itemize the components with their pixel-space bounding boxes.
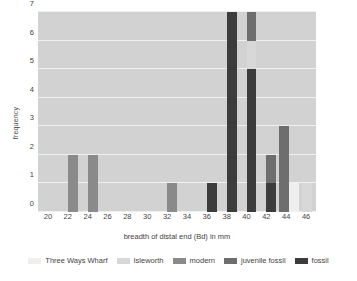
y-tick-label: 4 (30, 84, 34, 93)
histogram-bar (266, 155, 276, 212)
x-tick-label: 44 (282, 212, 290, 221)
bar-segment (207, 183, 217, 212)
legend-swatch-icon (117, 258, 130, 264)
x-tick-label: 42 (262, 212, 270, 221)
histogram-bar (88, 155, 98, 212)
y-tick-label: 1 (30, 170, 34, 179)
legend-label: Three Ways Wharf (45, 256, 107, 265)
bar-segment (167, 183, 177, 212)
histogram-bar (302, 183, 312, 212)
x-tick-label: 30 (143, 212, 151, 221)
legend-swatch-icon (173, 258, 186, 264)
bar-segment (266, 155, 276, 184)
histogram-bar (289, 183, 299, 212)
bar-series-layer (38, 12, 316, 212)
histogram-bar (227, 12, 237, 212)
legend-item-isleworth[interactable]: Isleworth (117, 256, 164, 265)
x-tick-label: 24 (83, 212, 91, 221)
y-tick-label: 7 (30, 0, 34, 8)
legend-label: Isleworth (134, 256, 164, 265)
histogram-bar (279, 126, 289, 212)
y-tick-label: 0 (30, 199, 34, 208)
x-tick-label: 26 (103, 212, 111, 221)
y-axis-label: frequency (2, 0, 9, 78)
x-axis-label: breadth of distal end (Bd) in mm (38, 232, 316, 241)
bar-segment (68, 155, 78, 212)
bar-segment (266, 183, 276, 212)
x-tick-label: 34 (183, 212, 191, 221)
x-axis-ticks: 2022242628303234363840424446 (38, 212, 316, 226)
legend-swatch-icon (224, 258, 237, 264)
legend-item-modern[interactable]: modern (173, 256, 215, 265)
bar-segment (247, 41, 257, 70)
legend-label: modern (190, 256, 215, 265)
legend-item-three-ways-wharf[interactable]: Three Ways Wharf (28, 256, 107, 265)
bar-segment (302, 183, 312, 212)
histogram-bar (207, 183, 217, 212)
y-tick-label: 2 (30, 141, 34, 150)
y-tick-label: 5 (30, 56, 34, 65)
x-tick-label: 40 (242, 212, 250, 221)
x-tick-label: 22 (64, 212, 72, 221)
bar-segment (247, 69, 257, 212)
legend: Three Ways WharfIsleworthmodernjuvenile … (0, 256, 357, 265)
histogram-bar (247, 12, 257, 212)
bar-segment (247, 12, 257, 41)
legend-item-juvenile-fossil[interactable]: juvenile fossil (224, 256, 286, 265)
legend-swatch-icon (28, 258, 41, 264)
legend-label: fossil (312, 256, 329, 265)
x-tick-label: 36 (203, 212, 211, 221)
bar-segment (289, 183, 299, 212)
x-tick-label: 20 (44, 212, 52, 221)
plot-area-wrapper: 01234567 (38, 12, 316, 212)
bar-segment (88, 155, 98, 212)
x-tick-label: 28 (123, 212, 131, 221)
x-tick-label: 46 (302, 212, 310, 221)
x-tick-label: 32 (163, 212, 171, 221)
y-tick-label: 6 (30, 27, 34, 36)
histogram-bar (167, 183, 177, 212)
y-tick-label: 3 (30, 113, 34, 122)
x-tick-label: 38 (222, 212, 230, 221)
bar-segment (279, 126, 289, 212)
legend-swatch-icon (295, 258, 308, 264)
bar-segment (227, 12, 237, 212)
histogram-figure: frequency 01234567 202224262830323436384… (0, 0, 357, 281)
legend-label: juvenile fossil (241, 256, 286, 265)
legend-item-fossil[interactable]: fossil (295, 256, 329, 265)
histogram-bar (68, 155, 78, 212)
